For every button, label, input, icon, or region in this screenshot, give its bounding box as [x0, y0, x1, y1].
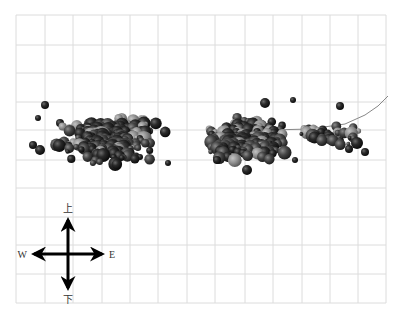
sphere-point	[65, 149, 69, 153]
sphere-point	[361, 148, 369, 156]
trend-curve	[270, 96, 388, 130]
sphere-point	[90, 160, 96, 166]
sphere-points	[29, 97, 369, 175]
compass-label-down: 下	[63, 294, 73, 305]
sphere-point	[278, 146, 292, 160]
sphere-point	[53, 139, 66, 152]
sphere-point	[78, 146, 84, 152]
sphere-point	[228, 153, 242, 167]
sphere-point	[35, 145, 45, 155]
sphere-point	[130, 154, 139, 163]
sphere-point	[165, 160, 171, 166]
sphere-point	[146, 147, 153, 154]
sphere-point	[97, 159, 103, 165]
sphere-point	[316, 135, 327, 146]
sphere-point	[292, 157, 298, 163]
sphere-point	[64, 125, 76, 137]
sphere-point	[83, 152, 93, 162]
sphere-point	[345, 145, 353, 153]
sphere-point	[208, 149, 213, 154]
sphere-point	[290, 97, 296, 103]
compass-rose: 上 下 W E	[18, 203, 116, 305]
scatter-plot-3d: 上 下 W E	[0, 0, 394, 317]
sphere-point	[67, 155, 75, 163]
sphere-point	[242, 150, 253, 161]
sphere-point	[336, 102, 344, 110]
sphere-point	[264, 154, 275, 165]
compass-label-west: W	[18, 249, 28, 260]
sphere-point	[260, 98, 270, 108]
sphere-point	[41, 101, 49, 109]
compass-label-east: E	[109, 249, 115, 260]
sphere-point	[150, 118, 162, 130]
sphere-point	[242, 165, 252, 175]
sphere-point	[160, 127, 171, 138]
sphere-point	[112, 159, 122, 169]
sphere-point	[299, 132, 303, 136]
sphere-point	[213, 156, 221, 164]
sphere-point	[141, 139, 150, 148]
trend-curve-line	[270, 96, 388, 130]
sphere-point	[135, 145, 142, 152]
sphere-point	[35, 115, 41, 121]
compass-label-up: 上	[63, 203, 73, 214]
sphere-point	[351, 137, 363, 149]
sphere-point	[144, 154, 155, 165]
sphere-point	[335, 139, 346, 150]
